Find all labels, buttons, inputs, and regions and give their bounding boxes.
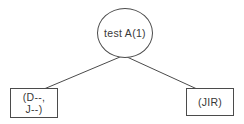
right-leaf-label: (JIR) (198, 96, 222, 108)
root-node: test A(1) (97, 8, 153, 58)
left-leaf-label: (D--, J--) (23, 91, 46, 115)
left-leaf-label-line1: (D--, (23, 91, 46, 103)
edge-root-to-right-leaf (127, 57, 197, 89)
tree-diagram: test A(1) (D--, J--) (JIR) (0, 0, 244, 124)
left-leaf-label-line2: J--) (23, 103, 46, 115)
edge-root-to-left-leaf (44, 57, 120, 89)
root-node-label: test A(1) (104, 27, 146, 39)
left-leaf-node: (D--, J--) (10, 88, 58, 118)
right-leaf-node: (JIR) (186, 88, 234, 116)
